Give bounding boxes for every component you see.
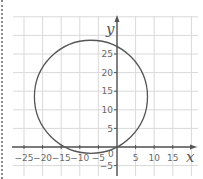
y-tick-label: 20 [102,68,114,78]
x-tick-label: −20 [33,153,52,163]
circle-graph-figure: −25−20−15−10−551015−5510152025 x y 0 [0,0,203,179]
coordinate-plane: −25−20−15−10−551015−5510152025 x y 0 [0,0,203,179]
x-axis-label: x [186,148,195,166]
y-tick-label: 5 [107,124,113,134]
circle-curve [34,40,147,153]
y-axis-label: y [105,20,115,38]
x-tick-label: 10 [148,153,160,163]
x-tick-label: −15 [52,153,71,163]
y-axis-arrow-icon [115,15,120,22]
origin-label: 0 [108,149,114,159]
x-tick-label: −25 [15,153,34,163]
y-tick-label: 15 [102,86,113,96]
dotted-page-edge [1,0,3,179]
x-tick-label: 15 [167,153,178,163]
x-tick-label: −10 [70,153,89,163]
plotted-curves [34,40,147,153]
y-tick-label: 25 [102,49,113,59]
y-tick-label: 10 [102,105,114,115]
y-tick-label: −5 [100,161,113,171]
x-tick-label: 5 [133,153,139,163]
